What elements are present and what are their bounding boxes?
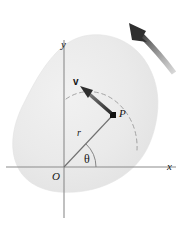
y-axis-label: y	[61, 39, 66, 50]
figure-canvas	[0, 0, 181, 227]
origin-label: O	[52, 171, 60, 182]
radius-label: r	[77, 128, 81, 138]
point-p-label: P	[119, 108, 126, 119]
theta-label: θ	[84, 153, 90, 165]
velocity-vector-label: v	[73, 77, 79, 87]
rigid-body-shape	[13, 35, 158, 193]
x-axis-label: x	[167, 161, 172, 172]
rotating-body-figure: y x O P r θ v	[0, 0, 181, 227]
